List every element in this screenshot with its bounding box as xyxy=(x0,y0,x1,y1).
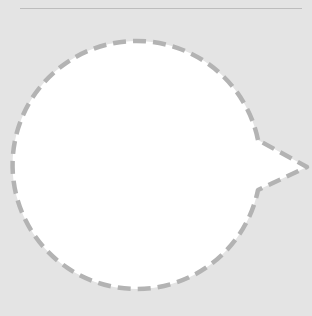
bubble-outline xyxy=(13,41,307,289)
speech-bubble-shape[interactable] xyxy=(0,0,312,316)
